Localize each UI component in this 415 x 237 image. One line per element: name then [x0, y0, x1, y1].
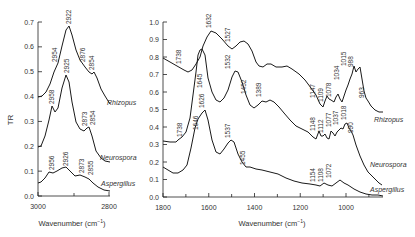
- peak-label: 2956: [48, 155, 55, 170]
- y-tick-label: 0.1: [24, 168, 34, 175]
- peak-label: 1018: [340, 105, 347, 120]
- peak-label: 1072: [325, 163, 332, 178]
- peak-label: 1108: [317, 168, 324, 182]
- ftir-figure: 0.00.10.20.30.40.50.60.7 30002800 TR Wav…: [0, 0, 415, 237]
- peak-label: 2854: [88, 55, 95, 70]
- peak-label: 1109: [317, 88, 324, 102]
- peak-label: 2958: [48, 89, 55, 104]
- y-tick-label: 0.7: [149, 71, 159, 78]
- series-label-aspergillus: Aspergillus: [369, 186, 405, 194]
- left-x-axis-title: Wavenumber (cm−1): [38, 218, 106, 228]
- y-tick-label: 0.5: [149, 106, 159, 113]
- peak-label: 988: [347, 56, 354, 67]
- y-tick-label: 0.5: [24, 68, 34, 75]
- peak-label: 2925: [63, 58, 70, 73]
- y-axis-title: TR: [6, 114, 15, 125]
- y-tick-label: 0.3: [24, 118, 34, 125]
- y-tick-label: 0.4: [24, 93, 34, 100]
- peak-label: 1154: [309, 168, 316, 182]
- peak-label: 2922: [65, 9, 72, 24]
- peak-label: 1037: [332, 110, 339, 125]
- peak-label: 1532: [224, 54, 231, 69]
- y-tick-label: 1.0: [149, 19, 159, 26]
- peak-label: 2926: [62, 151, 69, 166]
- right-panel: 0.00.10.20.30.40.50.60.70.80.91.0 180016…: [149, 13, 406, 228]
- peak-label: 1034: [333, 65, 340, 80]
- series-label-aspergillus: Aspergillus: [100, 180, 136, 188]
- series-label-rhizopus: Rhizopus: [374, 116, 404, 124]
- x-tick-label: 3000: [30, 203, 46, 210]
- peak-label: 1738: [175, 49, 182, 64]
- right-peak-labels: 1738 1632 1645 1527 1452 1389 1147 1109 …: [175, 13, 365, 182]
- peak-label: 1738: [176, 122, 183, 137]
- peak-label: 990: [347, 122, 354, 133]
- x-tick-label: 1400: [247, 204, 263, 211]
- peak-label: 1078: [325, 82, 332, 97]
- peak-label: 963: [358, 87, 365, 98]
- y-tick-label: 0.0: [24, 193, 34, 200]
- y-tick-label: 0.9: [149, 36, 159, 43]
- peak-label: 1077: [325, 112, 332, 127]
- left-panel: 0.00.10.20.30.40.50.60.7 30002800 TR Wav…: [6, 9, 137, 228]
- peak-label: 2873: [78, 158, 85, 173]
- right-x-ticks: 18001600140012001000: [155, 193, 369, 211]
- y-tick-label: 0.4: [149, 124, 159, 131]
- peak-label: 2855: [87, 160, 94, 175]
- peak-label: 2854: [89, 110, 96, 125]
- peak-label: 1537: [224, 123, 231, 138]
- x-tick-label: 1000: [338, 204, 354, 211]
- peak-label: 1455: [239, 150, 246, 165]
- peak-label: 1632: [205, 13, 212, 28]
- peak-label: 1147: [309, 84, 316, 98]
- left-y-ticks: 0.00.10.20.30.40.50.60.7: [24, 19, 42, 200]
- peak-label: 1389: [255, 82, 262, 97]
- y-tick-label: 0.2: [24, 143, 34, 150]
- peak-label: 2873: [81, 111, 88, 126]
- y-tick-label: 0.1: [149, 176, 159, 183]
- y-tick-label: 0.2: [149, 159, 159, 166]
- y-tick-label: 0.7: [24, 19, 34, 26]
- peak-label: 1148: [309, 117, 316, 131]
- left-curve-neurospora: [38, 75, 110, 162]
- peak-label: 2954: [51, 47, 58, 62]
- peak-label: 1527: [224, 27, 231, 42]
- y-tick-label: 0.8: [149, 54, 159, 61]
- peak-label: 1452: [240, 79, 247, 94]
- left-series-labels: Rhizopus Neurospora Aspergillus: [100, 99, 137, 188]
- peak-label: 1015: [340, 51, 347, 66]
- right-x-axis-title: Wavenumber (cm−1): [238, 218, 306, 228]
- y-tick-label: 0.6: [149, 89, 159, 96]
- x-tick-label: 1200: [292, 204, 308, 211]
- x-tick-label: 2800: [101, 203, 117, 210]
- peak-label: 1112: [317, 119, 324, 133]
- y-tick-label: 0.0: [149, 194, 159, 201]
- peak-label: 1646: [192, 115, 199, 130]
- series-label-rhizopus: Rhizopus: [107, 99, 137, 107]
- peak-label: 1645: [196, 73, 203, 88]
- left-x-ticks: 30002800: [30, 192, 117, 210]
- peak-label: 1626: [198, 93, 205, 108]
- right-y-ticks: 0.00.10.20.30.40.50.60.70.80.91.0: [149, 19, 167, 201]
- series-label-neurospora: Neurospora: [370, 161, 407, 169]
- x-tick-label: 1800: [155, 204, 171, 211]
- y-tick-label: 0.6: [24, 43, 34, 50]
- y-tick-label: 0.3: [149, 141, 159, 148]
- x-tick-label: 1600: [201, 204, 217, 211]
- right-series-labels: Rhizopus Neurospora Aspergillus: [369, 116, 407, 194]
- peak-label: 2876: [79, 47, 86, 62]
- series-label-neurospora: Neurospora: [100, 154, 137, 162]
